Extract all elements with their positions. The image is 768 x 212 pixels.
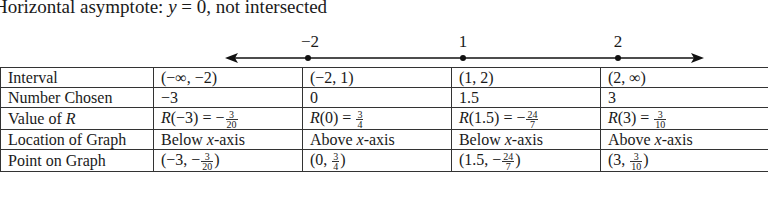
pre: (0,	[310, 151, 331, 168]
post: )	[214, 151, 219, 168]
axis-var: x	[357, 131, 364, 148]
table-cell: R(−3) = −320	[153, 108, 302, 130]
row-header: Location of Graph	[1, 129, 154, 149]
table-row-number-chosen: Number Chosen −3 0 1.5 3	[1, 88, 768, 108]
axis-var: x	[505, 131, 512, 148]
fn-name: R	[161, 109, 171, 126]
table-row-value-of-r: Value of R R(−3) = −320 R(0) = 34 R(1.5)…	[1, 108, 768, 130]
fraction: 310	[654, 110, 666, 129]
post: )	[340, 151, 345, 168]
table-cell: (3, 310)	[600, 149, 768, 171]
denominator: 4	[332, 162, 339, 171]
fraction: 247	[502, 152, 514, 171]
fraction: 320	[226, 110, 238, 129]
table-cell: −3	[153, 88, 302, 108]
word: Below	[459, 131, 505, 148]
row-header: Value of R	[1, 108, 154, 130]
lhs: (3) =	[618, 109, 654, 126]
axis-var: x	[207, 131, 214, 148]
denominator: 20	[226, 120, 238, 129]
lhs: (−3) = −	[171, 109, 225, 126]
table-cell: 0	[302, 88, 451, 108]
table-cell: (−3, −320)	[153, 149, 302, 171]
table-cell: Below x-axis	[153, 129, 302, 149]
pre: (3,	[608, 151, 629, 168]
table-cell: R(1.5) = −247	[451, 108, 600, 130]
pre: (−3, −	[161, 151, 200, 168]
rest: -axis	[662, 131, 693, 148]
table-cell: Above x-axis	[600, 129, 768, 149]
rest: -axis	[214, 131, 245, 148]
row-header: Number Chosen	[1, 88, 154, 108]
fn-name: R	[459, 109, 469, 126]
table-cell: Below x-axis	[451, 129, 600, 149]
table-cell: R(3) = 310	[600, 108, 768, 130]
sign-table: Interval (−∞, −2) (−2, 1) (1, 2) (2, ∞) …	[0, 67, 768, 172]
denominator: 10	[630, 162, 642, 171]
word: Above	[310, 131, 357, 148]
table-cell: 3	[600, 88, 768, 108]
axis-var: x	[655, 131, 662, 148]
header-var: R	[66, 110, 76, 127]
table-row-point: Point on Graph (−3, −320) (0, 34) (1.5, …	[1, 149, 768, 171]
point-neg2	[305, 55, 311, 61]
word: Above	[608, 131, 655, 148]
table-cell: (1.5, −247)	[451, 149, 600, 171]
table-cell: (2, ∞)	[600, 68, 768, 88]
rest: -axis	[364, 131, 395, 148]
denominator: 7	[526, 120, 538, 129]
fraction: 320	[201, 152, 213, 171]
tick-label-1: 1	[459, 32, 468, 52]
fraction: 310	[630, 152, 642, 171]
fraction: 34	[356, 110, 363, 129]
point-2	[615, 55, 621, 61]
post: )	[515, 151, 520, 168]
tick-label-2: 2	[614, 32, 623, 52]
table-cell: 1.5	[451, 88, 600, 108]
fn-name: R	[608, 109, 618, 126]
tick-label-neg2: −2	[301, 32, 319, 52]
table-row-interval: Interval (−∞, −2) (−2, 1) (1, 2) (2, ∞)	[1, 68, 768, 88]
table-row-location: Location of Graph Below x-axis Above x-a…	[1, 129, 768, 149]
denominator: 20	[201, 162, 213, 171]
row-header: Point on Graph	[1, 149, 154, 171]
lhs: (1.5) = −	[469, 109, 526, 126]
point-1	[460, 55, 466, 61]
number-line	[0, 0, 768, 70]
row-header: Interval	[1, 68, 154, 88]
table-cell: (0, 34)	[302, 149, 451, 171]
denominator: 10	[654, 120, 666, 129]
lhs: (0) =	[320, 109, 356, 126]
post: )	[643, 151, 648, 168]
rest: -axis	[512, 131, 543, 148]
table-cell: Above x-axis	[302, 129, 451, 149]
fraction: 34	[332, 152, 339, 171]
table-cell: (1, 2)	[451, 68, 600, 88]
table-cell: (−∞, −2)	[153, 68, 302, 88]
table-cell: R(0) = 34	[302, 108, 451, 130]
pre: (1.5, −	[459, 151, 501, 168]
denominator: 7	[502, 162, 514, 171]
word: Below	[161, 131, 207, 148]
fraction: 247	[526, 110, 538, 129]
table-cell: (−2, 1)	[302, 68, 451, 88]
header-prefix: Value of	[8, 110, 66, 127]
denominator: 4	[356, 120, 363, 129]
fn-name: R	[310, 109, 320, 126]
